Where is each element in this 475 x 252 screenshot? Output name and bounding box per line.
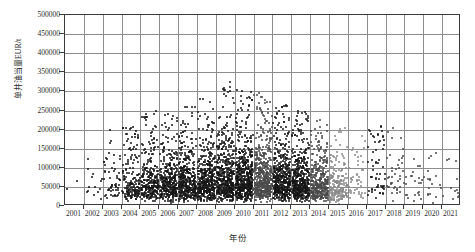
scatter-point [239,191,241,193]
scatter-point [225,146,227,148]
scatter-point [137,191,139,193]
scatter-point [271,115,273,117]
scatter-point [193,153,195,155]
scatter-point [113,162,115,164]
x-axis-tick-label: 2010 [236,209,251,218]
scatter-point [167,129,169,131]
scatter-point [133,159,135,161]
x-axis-tick-mark [309,205,310,209]
scatter-point [379,173,381,175]
scatter-point [301,112,303,114]
scatter-point [206,200,208,202]
scatter-point [168,153,170,155]
scatter-point [220,143,222,145]
scatter-point [435,196,437,198]
scatter-point [322,159,324,161]
scatter-point [171,138,173,140]
scatter-point [357,156,359,158]
scatter-point [334,135,336,137]
scatter-point [316,120,318,122]
scatter-point [149,169,151,171]
scatter-point [172,115,174,117]
scatter-point [169,188,171,190]
scatter-point [228,139,230,141]
scatter-point [259,198,261,200]
scatter-point [403,182,405,184]
scatter-point [109,177,111,179]
scatter-point [376,173,378,175]
scatter-point [294,151,296,153]
scatter-point [277,124,279,126]
scatter-point [226,122,228,124]
scatter-point [331,188,333,190]
scatter-point [176,168,178,170]
scatter-point [411,175,413,177]
scatter-point [356,151,358,153]
scatter-point [165,126,167,128]
scatter-point [320,132,322,134]
scatter-point [297,169,299,171]
scatter-point [277,177,279,179]
scatter-point [125,181,127,183]
scatter-point [192,183,194,185]
scatter-point [135,183,137,185]
y-axis-tick-label: 400000 [38,48,61,57]
scatter-point [335,159,337,161]
scatter-point [343,164,345,166]
scatter-point [162,151,164,153]
scatter-point [325,183,327,185]
scatter-point [104,164,106,166]
scatter-point [113,170,115,172]
scatter-point [332,175,334,177]
scatter-point [207,160,209,162]
scatter-point [146,195,148,197]
scatter-point [261,139,263,141]
scatter-point [319,126,321,128]
scatter-point [87,168,89,170]
scatter-point [173,186,175,188]
scatter-point [186,136,188,138]
scatter-point [119,158,121,160]
gridline-horizontal [65,34,459,35]
scatter-point [329,201,331,203]
scatter-point [304,197,306,199]
scatter-point [263,152,265,154]
scatter-point [134,133,136,135]
scatter-point [322,197,324,199]
scatter-point [209,176,211,178]
scatter-point [420,182,422,184]
scatter-point [361,135,363,137]
scatter-point [203,161,205,163]
scatter-point [143,164,145,166]
scatter-point [345,189,347,191]
scatter-point [202,98,204,100]
scatter-point [88,186,90,188]
y-axis-tick-mark [59,110,64,111]
scatter-point [216,181,218,183]
scatter-point [298,139,300,141]
scatter-point [170,168,172,170]
scatter-point [218,186,220,188]
scatter-point [361,169,363,171]
scatter-point [110,190,112,192]
scatter-point [250,200,252,202]
scatter-point [260,201,262,203]
scatter-point [206,163,208,165]
scatter-point [199,98,201,100]
scatter-point [127,138,129,140]
scatter-point [145,151,147,153]
scatter-point [260,134,262,136]
scatter-point [304,150,306,152]
scatter-point [294,125,296,127]
scatter-point [388,186,390,188]
scatter-point [326,162,328,164]
scatter-point [431,183,433,185]
scatter-point [122,192,124,194]
scatter-point [286,191,288,193]
scatter-point [325,197,327,199]
scatter-point [320,177,322,179]
scatter-point [173,168,175,170]
scatter-point [117,189,119,191]
scatter-point [170,177,172,179]
scatter-point [274,127,276,129]
